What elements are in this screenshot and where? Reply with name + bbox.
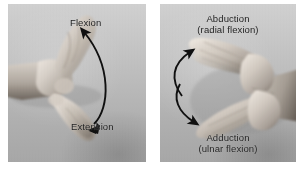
label-abduction-line2: (radial flexion): [160, 24, 296, 35]
label-extension: Extension: [71, 121, 114, 132]
label-flexion-line1: Flexion: [70, 17, 101, 28]
panel-abduction-adduction: Abduction (radial flexion) Adduction (ul…: [160, 4, 296, 162]
label-abduction-line1: Abduction: [206, 13, 249, 24]
label-adduction-line2: (ulnar flexion): [160, 143, 296, 154]
label-adduction: Adduction (ulnar flexion): [160, 132, 296, 154]
label-adduction-line1: Adduction: [206, 132, 249, 143]
wrist-movement-figure: Flexion Extension: [0, 0, 304, 171]
label-flexion: Flexion: [70, 17, 101, 28]
label-extension-line1: Extension: [71, 121, 114, 132]
panel-flexion-extension: Flexion Extension: [8, 4, 146, 162]
label-abduction: Abduction (radial flexion): [160, 13, 296, 35]
